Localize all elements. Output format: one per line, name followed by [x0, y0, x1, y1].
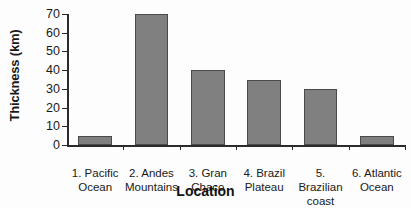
y-tick-label: 50	[46, 44, 60, 58]
y-tick-mark	[62, 14, 67, 15]
bar	[191, 70, 225, 145]
y-tick-label: 70	[46, 7, 60, 21]
y-tick-mark	[62, 33, 67, 34]
x-tick-mark	[180, 145, 181, 150]
x-tick-mark	[349, 145, 350, 150]
bar	[360, 136, 394, 145]
y-axis-title: Thickness (km)	[0, 0, 30, 150]
x-category-label-line1: 3. Gran	[189, 167, 227, 179]
y-tick-label: 0	[53, 138, 60, 152]
y-tick-label: 30	[46, 82, 60, 96]
y-tick-label: 60	[46, 26, 60, 40]
bar	[78, 136, 112, 145]
y-axis-line	[67, 14, 69, 145]
x-category-label-line1: 4. Brazil	[243, 167, 285, 179]
x-category-label-line1: 2. Andes	[129, 167, 174, 179]
x-tick-mark	[236, 145, 237, 150]
y-tick-mark	[62, 108, 67, 109]
y-tick-label: 10	[46, 119, 60, 133]
plot-area: 010203040506070 1. PacificOcean2. AndesM…	[67, 14, 405, 145]
x-tick-mark	[405, 145, 406, 150]
y-tick-mark	[62, 89, 67, 90]
x-tick-mark	[292, 145, 293, 150]
x-axis-title: Location	[0, 183, 411, 199]
y-tick-mark	[62, 51, 67, 52]
y-tick-mark	[62, 145, 67, 146]
x-category-label-line1: 1. Pacific	[72, 167, 119, 179]
bar	[247, 80, 281, 146]
x-tick-mark	[123, 145, 124, 150]
bar	[304, 89, 338, 145]
y-tick-mark	[62, 126, 67, 127]
bar-chart-figure: Thickness (km) 010203040506070 1. Pacifi…	[0, 0, 411, 208]
y-tick-label: 20	[46, 101, 60, 115]
y-tick-mark	[62, 70, 67, 71]
y-tick-label: 40	[46, 63, 60, 77]
bar	[135, 14, 169, 145]
x-category-label-line1: 6. Atlantic	[352, 167, 402, 179]
y-axis-title-text: Thickness (km)	[8, 29, 23, 121]
